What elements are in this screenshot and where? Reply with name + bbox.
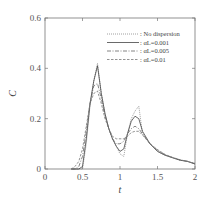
y-tick-label: 0 [37, 164, 42, 174]
y-tick-label: 0.6 [30, 13, 42, 23]
chart: 00.511.5200.20.40.6tC : No dispersion: α… [0, 0, 207, 207]
y-tick-label: 0.4 [30, 63, 42, 73]
series-lines [71, 63, 195, 169]
x-tick-label: 0 [43, 172, 48, 182]
x-tick-label: 0.5 [77, 172, 89, 182]
series-line [71, 66, 195, 169]
legend-label: : αL=0.01 [140, 56, 166, 63]
plot-frame [45, 18, 195, 169]
legend-label: : No dispersion [140, 30, 180, 37]
series-line [71, 83, 195, 169]
x-axis-label: t [119, 184, 122, 195]
legend-label: : αL=0.001 [140, 39, 169, 46]
series-line [71, 63, 195, 169]
x-tick-label: 1 [118, 172, 123, 182]
x-tick-label: 1.5 [152, 172, 164, 182]
x-tick-label: 2 [193, 172, 198, 182]
legend: : No dispersion: αL=0.001: αL=0.005: αL=… [107, 30, 180, 63]
legend-label: : αL=0.005 [140, 47, 169, 54]
y-tick-label: 0.2 [30, 114, 41, 124]
y-axis-label: C [7, 90, 18, 97]
plot-svg: 00.511.5200.20.40.6tC : No dispersion: α… [0, 0, 207, 207]
